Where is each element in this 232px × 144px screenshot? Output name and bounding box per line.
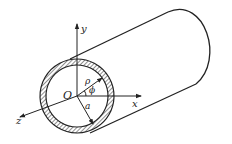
phi-arc [85,91,87,96]
cylinder-diagram: y x z O ρ ϕ a [0,0,232,144]
origin-label: O [63,89,72,102]
axes [20,24,141,124]
tube-body [70,9,210,133]
phi-label: ϕ [89,85,95,95]
radius-a-label: a [85,101,90,111]
y-axis-label: y [80,23,87,34]
tube-end-cap [168,9,210,84]
z-axis-label: z [15,115,22,126]
x-axis-label: x [132,98,138,109]
tube-top-edge [70,12,168,59]
